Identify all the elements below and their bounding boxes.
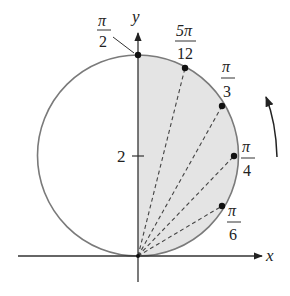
label-5pi-12: 5π 12 (175, 22, 196, 62)
label-pi-3: π 3 (221, 58, 235, 100)
svg-text:6: 6 (229, 226, 237, 243)
point-5pi-12 (182, 65, 188, 71)
polar-diagram: y x 2 π 2 5π 12 π 3 π 4 π 6 (0, 0, 290, 296)
pi-2-leader (113, 37, 134, 53)
point-pi-6 (219, 203, 225, 209)
label-pi-4: π 4 (241, 138, 255, 179)
y-axis-label: y (130, 7, 140, 26)
point-pi-4 (231, 153, 237, 159)
svg-text:2: 2 (99, 33, 107, 50)
svg-text:5π: 5π (176, 22, 193, 39)
rotation-arrow-icon (266, 97, 277, 157)
svg-text:π: π (228, 202, 237, 219)
point-pi-3 (219, 103, 225, 109)
svg-text:π: π (242, 138, 251, 155)
svg-text:12: 12 (177, 45, 193, 62)
label-pi-2: π 2 (97, 12, 111, 50)
y-tick-label: 2 (117, 147, 126, 166)
x-axis-label: x (265, 246, 274, 265)
point-origin (136, 254, 140, 258)
svg-text:π: π (222, 58, 231, 75)
svg-text:π: π (98, 12, 107, 29)
svg-text:4: 4 (243, 162, 251, 179)
label-pi-6: π 6 (227, 202, 241, 243)
svg-text:3: 3 (223, 83, 231, 100)
point-pi-2 (135, 52, 141, 58)
